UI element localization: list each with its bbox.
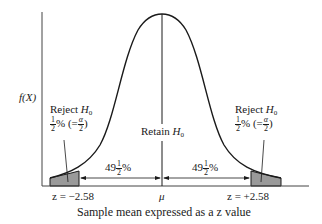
left-middle-percent: 4912% [105, 160, 131, 177]
z-left-label: z = −2.58 [52, 191, 94, 202]
x-axis-caption: Sample mean expressed as a z value [77, 207, 251, 218]
mu-label: μ [159, 191, 165, 202]
right-middle-percent: 4912% [192, 160, 218, 177]
z-right-label: z = +2.58 [227, 191, 269, 202]
right-tail-percent: 12% (=α2) [235, 116, 273, 133]
right-tail-shade [251, 171, 281, 186]
y-axis-label: f(X) [19, 92, 36, 103]
left-tail-percent: 12% (=α2) [50, 116, 88, 133]
retain-label: Retain H0 [140, 126, 185, 141]
bell-curve [50, 14, 281, 178]
